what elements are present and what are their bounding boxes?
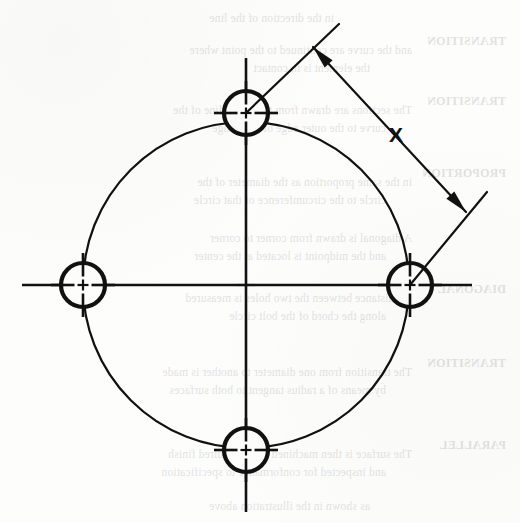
- drawing-canvas: X: [0, 0, 520, 523]
- drawing-page: TRANSITIONTRANSITIONPROPORTIONDIAGONALTR…: [0, 0, 520, 523]
- dimension-label-x: X: [389, 123, 403, 146]
- technical-drawing: X: [0, 0, 520, 523]
- extension-line-top-hole: [246, 24, 339, 113]
- dimension-group: [246, 24, 487, 285]
- extension-line-right-hole: [410, 192, 487, 285]
